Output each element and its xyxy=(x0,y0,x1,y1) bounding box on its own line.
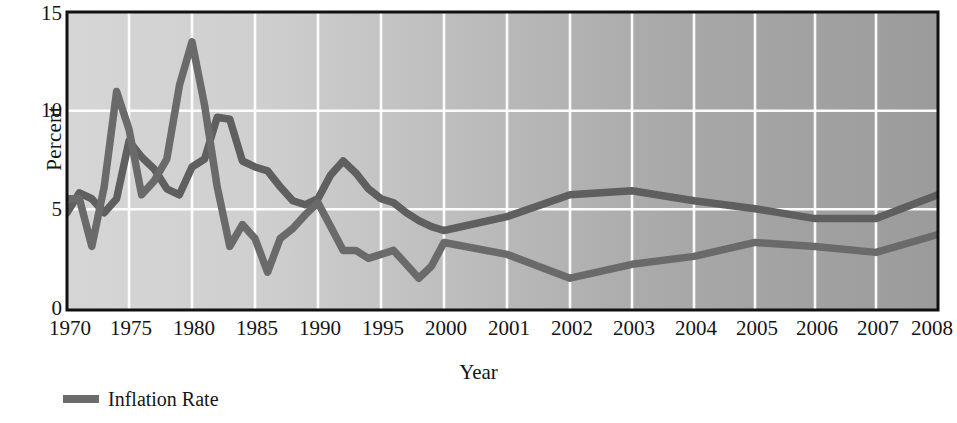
x-tick-1975: 1975 xyxy=(110,318,152,339)
x-tick-1980: 1980 xyxy=(173,318,215,339)
x-axis-ticks: 1970 1975 1980 1985 1990 1995 2000 2001 … xyxy=(0,318,957,352)
x-tick-2003: 2003 xyxy=(613,318,655,339)
x-tick-2002: 2002 xyxy=(551,318,593,339)
x-tick-1985: 1985 xyxy=(236,318,278,339)
x-tick-2005: 2005 xyxy=(736,318,778,339)
x-tick-2006: 2006 xyxy=(796,318,838,339)
y-axis-title: Percent xyxy=(42,79,67,199)
x-tick-1990: 1990 xyxy=(299,318,341,339)
chart-legend: Inflation Rate xyxy=(63,389,219,409)
x-tick-2004: 2004 xyxy=(675,318,717,339)
x-tick-2001: 2001 xyxy=(488,318,530,339)
x-tick-1995: 1995 xyxy=(362,318,404,339)
legend-label-inflation-rate: Inflation Rate xyxy=(108,389,219,409)
x-tick-2008: 2008 xyxy=(911,318,953,339)
x-axis-title: Year xyxy=(0,360,957,385)
x-tick-2007: 2007 xyxy=(857,318,899,339)
chart-figure: 15 10 5 0 Percent 1970 1975 1980 1985 19… xyxy=(0,0,957,423)
x-tick-1970: 1970 xyxy=(49,318,91,339)
y-tick-15: 15 xyxy=(6,3,62,24)
legend-swatch-inflation-rate xyxy=(63,395,99,403)
y-tick-5: 5 xyxy=(6,199,62,220)
x-tick-2000: 2000 xyxy=(425,318,467,339)
